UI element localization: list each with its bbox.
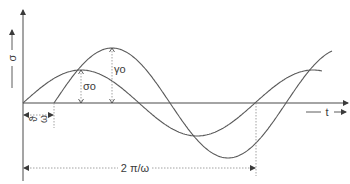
phase-shift-label: ϑ ω [28,115,49,123]
gamma-amplitude-label: γo [114,63,126,75]
sigma-amplitude-label: σo [83,80,96,92]
svg-text:ω: ω [38,115,49,123]
phase-shift-diagram: σo γo ϑ ω 2 π/ω σ [0,0,350,184]
x-axis-label: t [306,106,346,118]
y-axis-label: σ [6,30,18,88]
svg-text:t: t [325,106,328,118]
period-label: 2 π/ω [121,162,150,174]
svg-text:σ: σ [6,54,18,61]
gamma-amplitude-marker [110,48,115,103]
